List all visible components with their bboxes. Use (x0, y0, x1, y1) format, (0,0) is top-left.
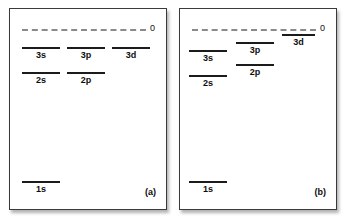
panel-b-level-3s-label: 3s (189, 53, 227, 63)
panel-a-level-3s-bar (22, 47, 60, 49)
panel-a-zero-label: 0 (150, 24, 155, 33)
panel-b-level-3d-label: 3d (282, 37, 315, 47)
panel-b-level-3p-label: 3p (236, 45, 274, 55)
energy-level-figure: 0 3s 3p 3d 2s 2p (0, 0, 347, 220)
panel-a-tag: (a) (145, 187, 156, 197)
panel-a-level-3d-label: 3d (112, 50, 150, 60)
panel-b-level-1s-bar (189, 181, 227, 183)
panel-a-level-3p-bar (67, 47, 105, 49)
panel-a-plot-area: 0 3s 3p 3d 2s 2p (10, 9, 166, 209)
panel-b-level-2s-label: 2s (189, 78, 227, 88)
panel-a-zero-line (22, 29, 146, 31)
panel-a: 0 3s 3p 3d 2s 2p (9, 8, 167, 210)
panel-a-level-1s-bar (22, 181, 60, 183)
panel-b-level-3d-bar (282, 34, 315, 36)
panel-a-level-2s-label: 2s (22, 75, 60, 85)
panel-b-plot-area: 0 3d 3p 3s 2p 2s (180, 9, 336, 209)
panel-a-level-2p-label: 2p (67, 75, 105, 85)
panel-b-tag: (b) (315, 187, 327, 197)
panel-a-level-2s-bar (22, 72, 60, 74)
panel-a-level-3p-label: 3p (67, 50, 105, 60)
panel-b-level-3s-bar (189, 50, 227, 52)
panel-b-level-1s-label: 1s (189, 184, 227, 194)
panel-b-level-2p-bar (236, 64, 274, 66)
panel-a-level-3s-label: 3s (22, 50, 60, 60)
panel-a-level-2p-bar (67, 72, 105, 74)
panel-b: 0 3d 3p 3s 2p 2s (179, 8, 337, 210)
panel-b-level-2s-bar (189, 75, 227, 77)
panel-b-zero-line (192, 29, 316, 31)
panel-a-level-1s-label: 1s (22, 184, 60, 194)
panel-b-zero-label: 0 (320, 24, 325, 33)
panel-b-level-3p-bar (236, 42, 274, 44)
panel-a-level-3d-bar (112, 47, 150, 49)
panel-b-level-2p-label: 2p (236, 67, 274, 77)
